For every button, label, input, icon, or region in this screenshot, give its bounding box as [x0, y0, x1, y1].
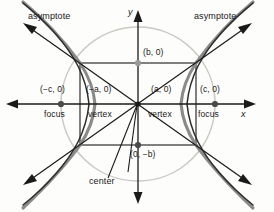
- vertex-right-name-label: vertex: [148, 110, 172, 119]
- focus-left-name-label: focus: [44, 110, 65, 119]
- focus-left-coord-label: (−c, 0): [40, 85, 65, 94]
- center-label: center: [89, 177, 115, 186]
- focus-right-name-label: focus: [198, 110, 219, 119]
- co-vertex-bottom-label: (0, −b): [130, 150, 156, 159]
- center-point: [135, 101, 140, 106]
- hyperbola-figure: asymptote asymptote y x (b, 0) (0, −b) (…: [0, 0, 274, 212]
- co-vertex-top-label: (b, 0): [143, 48, 163, 57]
- asymptote-label-left: asymptote: [28, 12, 70, 21]
- vertex-left-name-label: vertex: [88, 110, 112, 119]
- focus-right-point: [212, 101, 218, 107]
- vertex-right-coord-label: (a, 0): [151, 85, 171, 94]
- co-vertex-bottom-point: [135, 142, 141, 148]
- x-axis-label: x: [241, 110, 246, 119]
- vertex-left-coord-label: (−a, 0): [86, 85, 112, 94]
- co-vertex-top-point: [135, 60, 141, 66]
- focus-right-coord-label: (c, 0): [200, 85, 220, 94]
- asymptote-label-right: asymptote: [194, 12, 236, 21]
- focus-left-point: [58, 101, 64, 107]
- x-axis: [6, 100, 256, 109]
- y-axis-label: y: [128, 8, 133, 17]
- hyperbola-graphic: [0, 0, 274, 212]
